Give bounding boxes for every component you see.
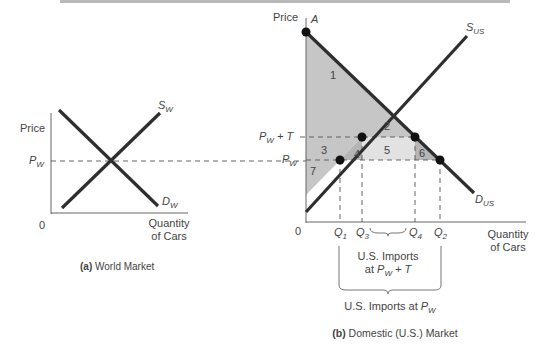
q3-sub: 3 xyxy=(365,232,369,241)
imports-tariff-brace xyxy=(370,228,406,236)
area-6-label: 6 xyxy=(419,148,425,159)
q2-q: Q xyxy=(434,226,443,238)
q3-dot xyxy=(358,133,367,142)
imports-tariff-sub: W xyxy=(384,269,392,278)
q1-q: Q xyxy=(334,226,343,238)
imports-free-text: U.S. Imports at xyxy=(344,300,420,312)
area-2-label: 2 xyxy=(384,121,390,132)
area-1-label: 1 xyxy=(330,70,336,81)
imports-free-sub: W xyxy=(428,306,436,315)
imports-tariff-suffix: + T xyxy=(392,263,411,275)
pw2-sub: W xyxy=(289,159,297,168)
q2-label: Q2 xyxy=(434,227,447,241)
domestic-origin-label: 0 xyxy=(295,226,301,237)
world-caption-text: World Market xyxy=(92,261,154,272)
pwt-suffix: + T xyxy=(274,130,293,142)
top-bar xyxy=(60,0,510,3)
area-4-label: 4 xyxy=(354,149,360,160)
tariff-diagram xyxy=(0,0,541,347)
dus-sub: US xyxy=(483,199,494,208)
pw-sub: W xyxy=(36,160,44,169)
sw-sub: W xyxy=(165,105,173,114)
domestic-caption: (b) Domestic (U.S.) Market xyxy=(330,328,460,339)
area-7-label: 7 xyxy=(310,166,316,177)
q1-dot xyxy=(336,156,345,165)
pw-label: PW xyxy=(282,154,297,168)
pwt-sub: W xyxy=(266,136,274,145)
world-demand-line xyxy=(59,110,158,206)
world-x-axis-label-2: of Cars xyxy=(148,231,190,242)
world-caption: (a) World Market xyxy=(80,262,154,272)
q4-sub: 4 xyxy=(418,232,422,241)
world-pw-label: PW xyxy=(29,155,44,169)
world-demand-label: DW xyxy=(162,196,178,210)
imports-tariff-at: at xyxy=(365,263,377,275)
domestic-caption-bold: (b) xyxy=(332,327,345,339)
domestic-caption-text: Domestic (U.S.) Market xyxy=(346,327,458,339)
q4-q: Q xyxy=(409,226,418,238)
world-x-axis-label-1: Quantity xyxy=(148,218,190,229)
pw-plus-t-label: PW + T xyxy=(259,131,293,145)
domestic-price-axis-label: Price xyxy=(273,12,298,23)
domestic-demand-label: DUS xyxy=(475,194,494,208)
q2-sub: 2 xyxy=(443,232,447,241)
world-supply-label: SW xyxy=(158,100,173,114)
world-market-chart xyxy=(51,110,306,214)
imports-tariff-label-2: at PW + T xyxy=(354,264,422,278)
q4-dot xyxy=(411,133,420,142)
point-a-label: A xyxy=(311,14,318,25)
domestic-supply-label: SUS xyxy=(466,22,484,36)
q1-sub: 1 xyxy=(343,232,347,241)
world-price-axis-label: Price xyxy=(20,123,45,134)
dw-d: D xyxy=(162,195,170,207)
q3-label: Q3 xyxy=(356,227,369,241)
world-origin-label: 0 xyxy=(39,220,45,231)
imports-free-label: U.S. Imports at PW xyxy=(340,301,440,315)
imports-free-p: P xyxy=(421,300,428,312)
world-caption-bold: (a) xyxy=(80,261,92,272)
dw-sub: W xyxy=(170,201,178,210)
sus-sub: US xyxy=(473,27,484,36)
dus-d: D xyxy=(475,193,483,205)
q1-label: Q1 xyxy=(334,227,347,241)
q4-label: Q4 xyxy=(409,227,422,241)
domestic-x-axis-label-1: Quantity xyxy=(485,229,531,240)
imports-tariff-label-1: U.S. Imports xyxy=(354,251,422,262)
domestic-x-axis-label-2: of Cars xyxy=(485,242,531,253)
q2-dot xyxy=(436,156,445,165)
point-a-dot xyxy=(302,28,311,37)
area-3-label: 3 xyxy=(321,145,327,156)
q3-q: Q xyxy=(356,226,365,238)
area-5-label: 5 xyxy=(384,145,390,156)
